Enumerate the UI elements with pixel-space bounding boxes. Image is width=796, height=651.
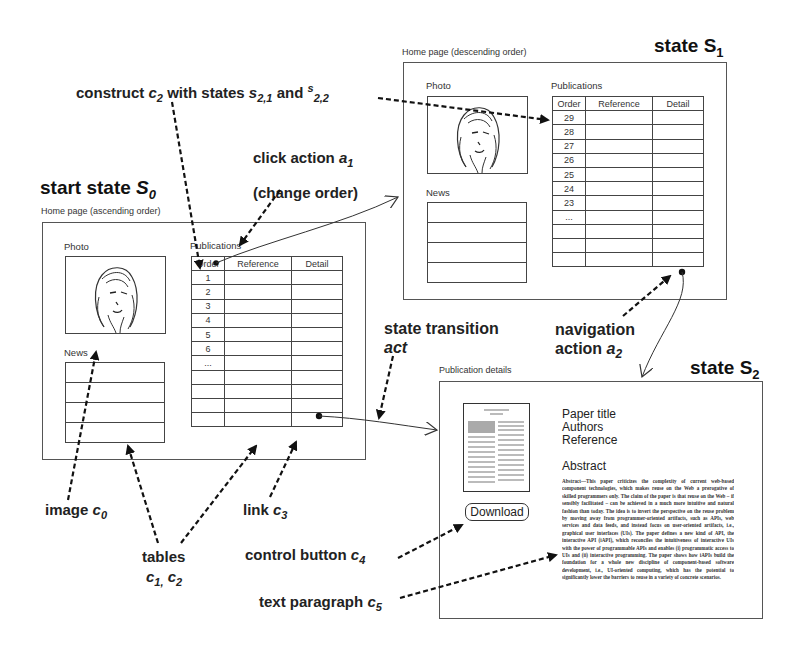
transition-s0-s2-arrow [319,416,437,430]
image-arrow [68,352,96,500]
control-button-arrow [398,525,462,558]
navigation-arrow [623,276,670,316]
link-arrow [270,442,296,497]
construct-s1-arrow [378,98,548,120]
text-paragraph-arrow [400,555,556,598]
tables-news-arrow [128,446,158,543]
tables-pub-arrow [181,446,256,543]
annotation-arrows [0,0,796,651]
transition-s1-s2-arrow [642,272,683,377]
click-action-arrow [240,190,280,245]
state-transition-arrow [379,356,393,418]
transition-s0-s1-arrow [216,197,398,263]
construct-arrow [172,102,200,268]
